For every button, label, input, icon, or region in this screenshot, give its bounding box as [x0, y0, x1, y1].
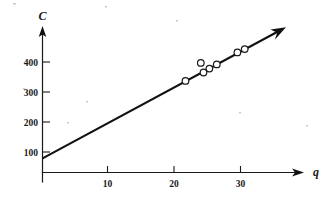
- y-tick-label-400: 400: [24, 58, 39, 68]
- paper-specks: [13, 3, 308, 127]
- y-tick-label-100: 100: [24, 148, 39, 158]
- x-tick-label-10: 10: [103, 179, 113, 189]
- y-tick-label-200: 200: [24, 118, 39, 128]
- y-axis-title: C: [38, 9, 47, 23]
- scatter-plot-figure: 400 300 200 100 10 20 30 C q: [0, 0, 334, 198]
- x-tick-label-30: 30: [236, 179, 246, 189]
- y-tick-label-300: 300: [24, 88, 39, 98]
- data-point: [241, 46, 248, 53]
- data-point: [198, 60, 205, 67]
- data-point: [214, 61, 221, 68]
- data-point: [200, 69, 207, 76]
- x-axis: [43, 168, 305, 176]
- data-point: [234, 49, 241, 56]
- y-tick-marks: [43, 62, 51, 152]
- data-point: [182, 78, 189, 85]
- data-point: [206, 65, 213, 72]
- y-tick-labels: 400 300 200 100: [24, 58, 39, 158]
- regression-line: [43, 27, 286, 158]
- x-axis-title: q: [313, 165, 319, 179]
- x-tick-labels: 10 20 30: [103, 179, 246, 189]
- x-tick-label-20: 20: [169, 179, 179, 189]
